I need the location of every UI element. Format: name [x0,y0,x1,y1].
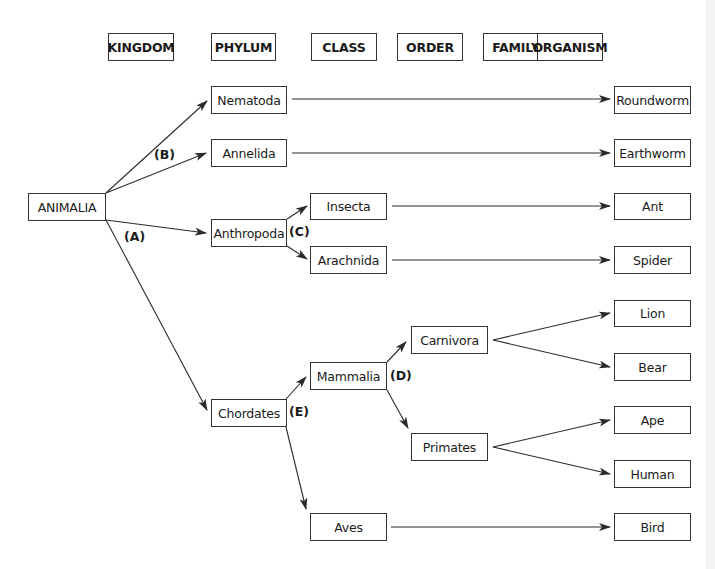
node-spider: Spider [614,246,691,274]
branch-label-e: (E) [289,404,309,419]
branch-label-a: (A) [124,229,145,244]
node-primates: Primates [411,433,488,461]
node-ant: Ant [614,193,691,220]
node-anthropoda: Anthropoda [211,219,287,247]
node-carnivora: Carnivora [411,326,488,354]
node-insecta: Insecta [310,193,387,220]
branch-label-c: (C) [289,224,310,239]
header-phylum: PHYLUM [211,33,276,61]
node-arachnida: Arachnida [310,246,387,274]
header-organism: ORGANISM [537,33,603,61]
taxonomy-diagram: KINGDOM PHYLUM CLASS ORDER FAMILY ORGANI… [0,0,715,569]
node-annelida: Annelida [211,139,287,167]
node-lion: Lion [614,300,691,327]
branch-label-d: (D) [390,368,412,383]
node-bird: Bird [614,513,691,541]
node-bear: Bear [614,353,691,381]
node-nematoda: Nematoda [211,86,287,114]
node-earthworm: Earthworm [614,139,691,167]
node-roundworm: Roundworm [614,86,691,114]
node-mammalia: Mammalia [310,362,387,390]
connector-arrows [0,0,715,569]
node-aves: Aves [310,513,387,541]
node-ape: Ape [614,406,691,434]
header-order: ORDER [397,33,463,61]
header-kingdom: KINGDOM [108,33,174,61]
node-animalia: ANIMALIA [28,193,106,221]
node-human: Human [614,460,691,488]
header-class: CLASS [311,33,377,61]
page-edge [706,0,715,569]
node-chordates: Chordates [211,399,287,427]
branch-label-b: (B) [154,147,175,162]
